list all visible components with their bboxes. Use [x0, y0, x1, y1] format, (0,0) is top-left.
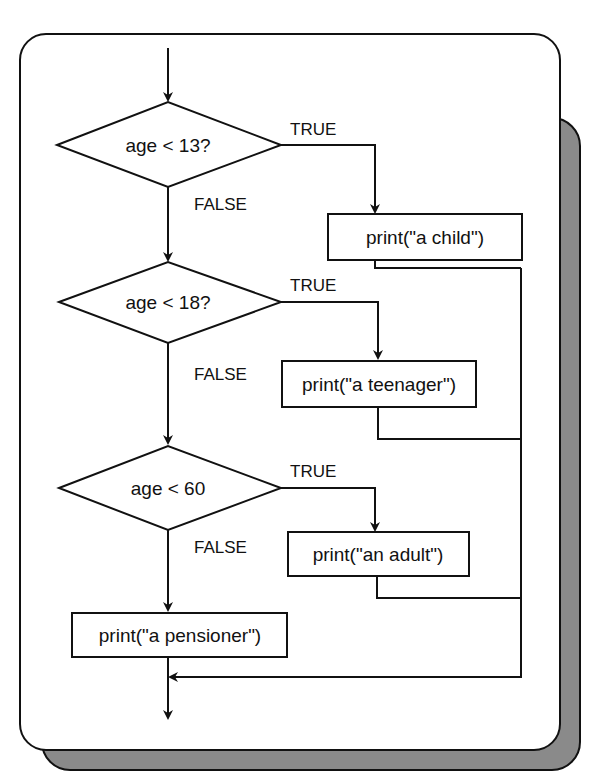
action-label: print("an adult") [313, 544, 444, 565]
flowchart-canvas: age < 13? TRUE FALSE print("a child") ag… [0, 0, 606, 784]
decision-label: age < 60 [131, 478, 206, 499]
true-label: TRUE [290, 462, 336, 481]
decision-label: age < 18? [125, 292, 210, 313]
action-label: print("a teenager") [302, 374, 456, 395]
false-label: FALSE [194, 538, 247, 557]
true-label: TRUE [290, 120, 336, 139]
action-label: print("a pensioner") [99, 625, 261, 646]
false-label: FALSE [194, 365, 247, 384]
decision-label: age < 13? [125, 135, 210, 156]
action-label: print("a child") [366, 227, 484, 248]
true-label: TRUE [290, 276, 336, 295]
false-label: FALSE [194, 195, 247, 214]
